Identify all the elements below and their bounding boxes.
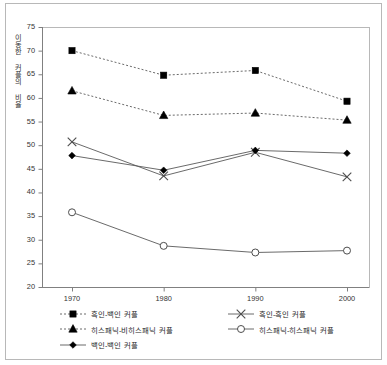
circle-marker <box>69 209 76 216</box>
x-tick-label: 1990 <box>235 294 275 303</box>
series-line <box>72 142 347 177</box>
legend-item-label: 히스패닉-히스패닉 커플 <box>256 324 334 335</box>
series-1 <box>68 86 351 123</box>
circle-marker <box>344 247 351 254</box>
y-tick-label: 40 <box>19 187 35 196</box>
square-marker <box>70 311 76 317</box>
triangle-marker <box>343 116 351 124</box>
diamond-marker <box>160 167 167 174</box>
series-4 <box>69 209 351 256</box>
legend-item: 흑인-흑인 커플 <box>226 306 334 322</box>
series-0 <box>69 48 350 105</box>
square-marker <box>252 67 258 73</box>
legend-item-label: 흑인-흑인 커플 <box>256 308 306 319</box>
series-line <box>72 51 347 102</box>
chart-figure: 이동한 커플의 비율 흑인-백인 커플히스패닉-비히스패닉 커플백인-백인 커플… <box>0 0 387 365</box>
series-line <box>72 150 347 170</box>
y-tick-label: 30 <box>19 235 35 244</box>
triangle-marker <box>68 86 76 94</box>
legend-item: 히스패닉-히스패닉 커플 <box>226 322 334 338</box>
x-marker <box>343 173 352 182</box>
diamond-marker <box>69 152 76 159</box>
y-tick-label: 55 <box>19 117 35 126</box>
legend-marker-sample <box>226 322 256 336</box>
y-tick-label: 50 <box>19 140 35 149</box>
legend-marker-sample <box>58 307 88 321</box>
square-marker <box>344 98 350 104</box>
y-tick-label: 25 <box>19 258 35 267</box>
legend-item-label: 백인-백인 커플 <box>88 339 138 350</box>
x-tick-label: 1980 <box>144 294 184 303</box>
legend-item: 흑인-백인 커플 <box>58 306 173 322</box>
x-tick-label: 2000 <box>327 294 367 303</box>
legend-column-right: 흑인-흑인 커플히스패닉-히스패닉 커플 <box>226 306 334 337</box>
circle-marker <box>160 242 167 249</box>
diamond-marker <box>70 341 77 348</box>
series-line <box>72 91 347 120</box>
x-marker <box>68 138 77 147</box>
legend-item-label: 히스패닉-비히스패닉 커플 <box>88 324 173 335</box>
y-tick-label: 20 <box>19 282 35 291</box>
square-marker <box>69 48 75 54</box>
y-tick-label: 60 <box>19 93 35 102</box>
diamond-marker <box>344 150 351 157</box>
y-tick-label: 75 <box>19 22 35 31</box>
legend-marker-sample <box>58 322 88 336</box>
circle-marker <box>252 249 259 256</box>
y-tick-label: 65 <box>19 69 35 78</box>
triangle-marker <box>159 111 167 119</box>
chart-legend: 흑인-백인 커플히스패닉-비히스패닉 커플백인-백인 커플 흑인-흑인 커플히스… <box>58 306 358 354</box>
legend-marker-sample <box>58 338 88 352</box>
square-marker <box>161 72 167 78</box>
x-tick-label: 1970 <box>52 294 92 303</box>
legend-item: 히스패닉-비히스패닉 커플 <box>58 322 173 338</box>
series-3 <box>69 147 351 173</box>
circle-marker <box>238 326 245 333</box>
triangle-marker <box>251 109 259 117</box>
legend-marker-sample <box>226 307 256 321</box>
y-tick-label: 45 <box>19 164 35 173</box>
series-line <box>72 212 347 252</box>
legend-item: 백인-백인 커플 <box>58 337 173 353</box>
triangle-marker <box>69 325 77 333</box>
y-tick-label: 35 <box>19 211 35 220</box>
legend-column-left: 흑인-백인 커플히스패닉-비히스패닉 커플백인-백인 커플 <box>58 306 173 353</box>
legend-item-label: 흑인-백인 커플 <box>88 308 138 319</box>
y-tick-label: 70 <box>19 46 35 55</box>
series-2 <box>68 138 352 182</box>
